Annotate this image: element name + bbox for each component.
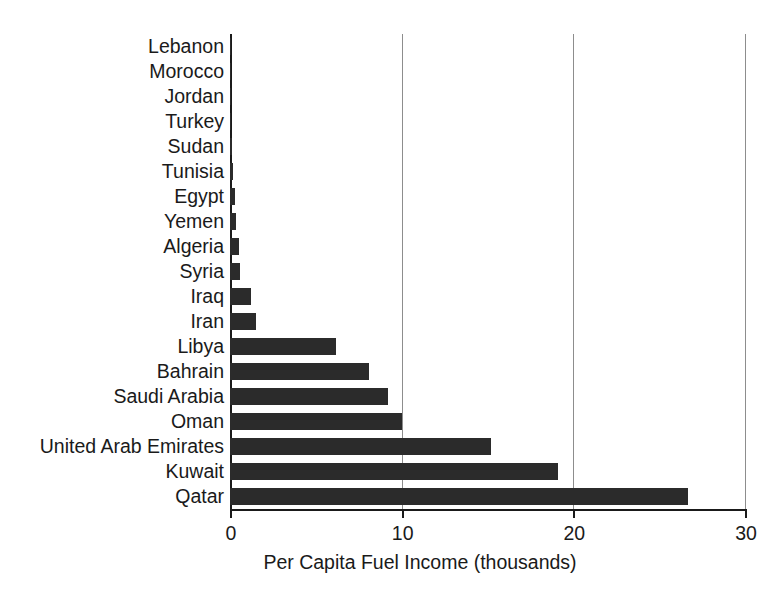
category-label: Algeria — [0, 234, 224, 259]
category-label: Tunisia — [0, 159, 224, 184]
category-label: Iraq — [0, 284, 224, 309]
x-tick-mark — [230, 509, 232, 518]
bars-layer — [230, 34, 745, 509]
category-label: Kuwait — [0, 459, 224, 484]
x-tick-label: 10 — [392, 521, 414, 545]
category-label: Bahrain — [0, 359, 224, 384]
bar — [230, 288, 251, 305]
bar — [230, 238, 239, 255]
bar — [230, 413, 402, 430]
y-axis-category-labels: LebanonMoroccoJordanTurkeySudanTunisiaEg… — [0, 34, 224, 509]
category-label: Jordan — [0, 84, 224, 109]
bar — [230, 488, 688, 505]
bar-chart-figure: LebanonMoroccoJordanTurkeySudanTunisiaEg… — [0, 0, 784, 612]
x-tick-mark — [402, 509, 404, 518]
x-tick-mark — [745, 509, 747, 518]
bar — [230, 188, 235, 205]
category-label: Morocco — [0, 59, 224, 84]
category-label: Lebanon — [0, 34, 224, 59]
bar — [230, 88, 231, 105]
category-label: Egypt — [0, 184, 224, 209]
bar — [230, 63, 231, 80]
x-tick-mark — [573, 509, 575, 518]
bar — [230, 313, 256, 330]
x-tick-label: 0 — [226, 521, 237, 545]
plot-area — [230, 34, 745, 509]
bar — [230, 463, 558, 480]
bar — [230, 363, 369, 380]
x-axis-line — [230, 509, 746, 511]
category-label: Iran — [0, 309, 224, 334]
category-label: Saudi Arabia — [0, 384, 224, 409]
bar — [230, 213, 236, 230]
bar — [230, 338, 336, 355]
category-label: Oman — [0, 409, 224, 434]
category-label: Qatar — [0, 484, 224, 509]
x-axis-title-text: Per Capita Fuel Income (thousands) — [263, 551, 576, 574]
gridline-30 — [745, 34, 746, 509]
category-label: Turkey — [0, 109, 224, 134]
bar — [230, 263, 240, 280]
x-tick-label: 30 — [735, 521, 757, 545]
category-label: Sudan — [0, 134, 224, 159]
category-label: Syria — [0, 259, 224, 284]
x-tick-label: 20 — [563, 521, 585, 545]
bar — [230, 438, 491, 455]
bar — [230, 163, 233, 180]
bar — [230, 388, 388, 405]
bar — [230, 38, 231, 55]
category-label: Yemen — [0, 209, 224, 234]
category-label: United Arab Emirates — [0, 434, 224, 459]
bar — [230, 113, 231, 130]
category-label: Libya — [0, 334, 224, 359]
x-axis-title: Per Capita Fuel Income (thousands) — [0, 551, 784, 574]
bar — [230, 138, 232, 155]
